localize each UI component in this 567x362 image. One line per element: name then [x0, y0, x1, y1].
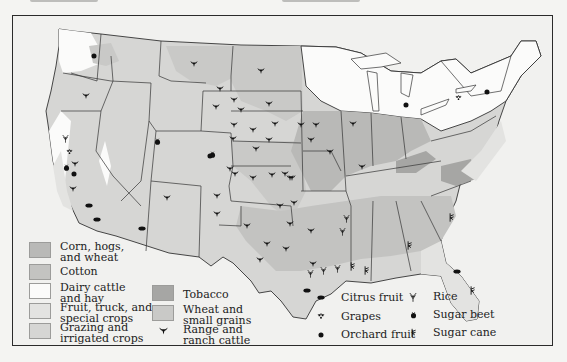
- orchard-fruit-icon: [313, 332, 329, 338]
- grapes-icon: [313, 313, 329, 321]
- legend-label: Cotton: [60, 267, 98, 278]
- legend-label: Grazing and irrigated crops: [60, 323, 143, 344]
- legend-label: Grapes: [341, 310, 381, 323]
- swatch-wheat: [152, 305, 174, 321]
- map-frame: Corn, hogs, and wheat Cotton Dairy cattl…: [12, 15, 553, 346]
- legend-label: Corn, hogs, and wheat: [60, 242, 124, 263]
- legend-cotton: Cotton: [29, 264, 98, 280]
- legend-sugar-beet: Sugar beet: [405, 308, 494, 321]
- page-header-cropped: [0, 0, 567, 14]
- sugar-cane-icon: [405, 328, 421, 338]
- legend-orchard-fruit: Orchard fruit: [313, 328, 415, 341]
- swatch-grazing: [29, 323, 51, 339]
- sugar-beet-icon: [405, 310, 421, 320]
- legend-corn-hogs-wheat: Corn, hogs, and wheat: [29, 242, 124, 263]
- legend-label: Sugar beet: [433, 308, 494, 321]
- legend-rice: Rice: [405, 290, 457, 303]
- legend-label: Range and ranch cattle: [183, 325, 250, 346]
- cattle-icon: [152, 325, 174, 338]
- header-center-text-fragment: [282, 0, 360, 2]
- legend-grazing: Grazing and irrigated crops: [29, 323, 143, 344]
- swatch-tobacco: [152, 285, 174, 301]
- header-left-text-fragment: [30, 0, 98, 2]
- citrus-fruit-icon: [313, 295, 329, 300]
- rice-icon: [405, 292, 421, 302]
- legend-label: Sugar cane: [433, 326, 496, 339]
- swatch-cotton: [29, 264, 51, 280]
- legend-grapes: Grapes: [313, 310, 381, 323]
- swatch-fruit-truck: [29, 303, 51, 319]
- legend-range-cattle: Range and ranch cattle: [152, 325, 250, 346]
- legend-citrus-fruit: Citrus fruit: [313, 291, 403, 304]
- legend-label: Citrus fruit: [341, 291, 403, 304]
- legend-tobacco: Tobacco: [152, 285, 229, 301]
- legend-label: Rice: [433, 290, 457, 303]
- swatch-corn-hogs-wheat: [29, 242, 51, 258]
- legend-sugar-cane: Sugar cane: [405, 326, 496, 339]
- legend-label: Tobacco: [183, 290, 229, 301]
- swatch-dairy: [29, 283, 51, 299]
